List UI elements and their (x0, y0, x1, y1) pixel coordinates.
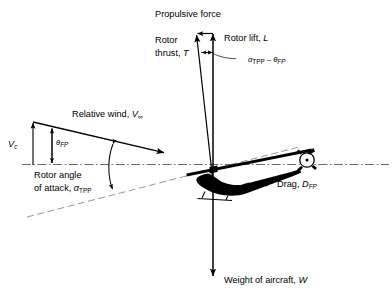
drag-label: Drag, DFP (277, 179, 318, 190)
theta-fp-subscript: FP (60, 141, 69, 148)
angle-alpha-minus-theta-indicator (202, 53, 237, 59)
rotor-aoa-label-line2: of attack, αTPP (34, 183, 92, 194)
climb-velocity-label: Vc (8, 139, 18, 150)
climb-velocity-subscript: c (14, 143, 18, 150)
rotor-thrust-label-line2: thrust, T (155, 48, 190, 58)
relative-wind-text: Relative wind, (72, 109, 132, 119)
angle-alpha-minus-theta-label: αTPP – θFP (248, 55, 286, 65)
rotor-lift-symbol: L (263, 33, 268, 43)
angle-theta-subscript: FP (277, 58, 286, 65)
weight-text: Weight of aircraft, (224, 275, 298, 285)
rotor-aoa-label-line1: Rotor angle (34, 170, 82, 180)
propulsive-force-label: Propulsive force (155, 9, 221, 19)
angle-alpha-subscript: TPP (252, 58, 264, 65)
weight-label: Weight of aircraft, W (224, 275, 308, 285)
angle-minus-sign: – (265, 55, 273, 64)
rotor-lift-label: Rotor lift, L (224, 33, 268, 43)
angle-alpha-tpp-indicator (109, 144, 113, 189)
weight-symbol: W (298, 275, 308, 285)
rotor-thrust-label-line1: Rotor (155, 35, 177, 45)
rotor-thrust-symbol: T (183, 48, 190, 58)
helicopter-silhouette (187, 148, 318, 201)
skid-strut-left (202, 192, 205, 199)
drag-subscript: FP (309, 183, 318, 190)
drag-text: Drag, (277, 179, 302, 189)
helicopter-force-diagram: Propulsive force Rotor thrust, T Rotor l… (0, 0, 392, 298)
relative-wind-vector (33, 122, 164, 153)
rotor-thrust-vector (197, 35, 213, 182)
relative-wind-label: Relative wind, V∞ (72, 109, 143, 120)
rotor-aoa-text: of attack, (34, 183, 74, 193)
relative-wind-subscript: ∞ (138, 113, 143, 120)
rotor-aoa-subscript: TPP (79, 187, 91, 194)
diagram-canvas: Propulsive force Rotor thrust, T Rotor l… (0, 0, 392, 298)
rotor-lift-text: Rotor lift, (224, 33, 263, 43)
rotor-thrust-label-text: thrust, (155, 48, 183, 58)
skid-strut-right (226, 196, 228, 201)
tail-rotor-hub (306, 159, 309, 162)
theta-fp-label: θFP (56, 138, 69, 148)
